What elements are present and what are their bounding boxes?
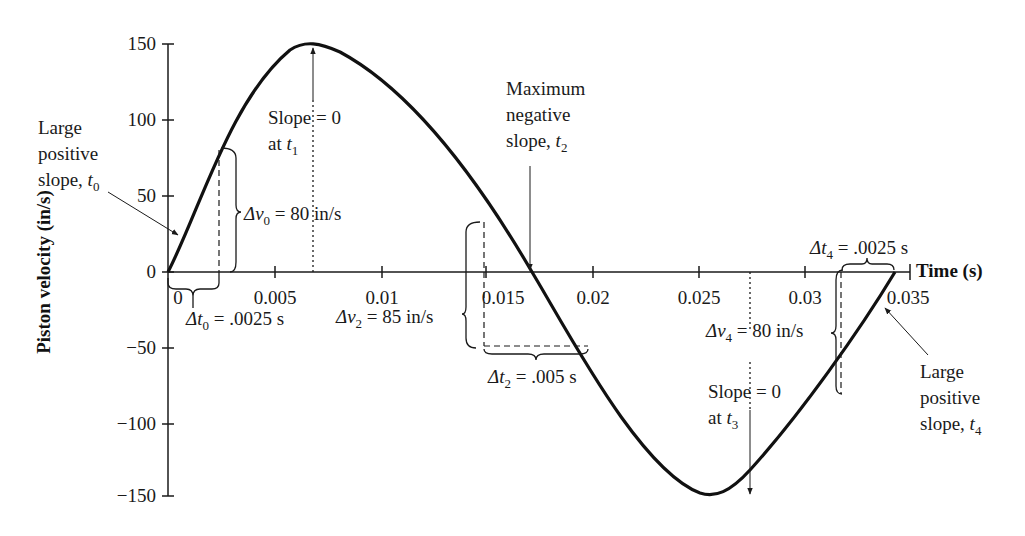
- dv2-label: Δv2 = 85 in/s: [335, 306, 434, 331]
- t1-label-line2: at t1: [268, 133, 298, 158]
- t4-label-line3: slope, t4: [920, 413, 982, 438]
- y-tick-label: −100: [117, 413, 156, 434]
- x-tick-label: 0.025: [678, 287, 721, 308]
- velocity-chart: 150 100 50 0 −50 −100 −150 Piston veloci…: [0, 0, 1025, 536]
- dv4-label: Δv4 = 80 in/s: [705, 320, 804, 345]
- x-axis: 0 0.005 0.01 0.015 0.02 0.025 0.03 0.035…: [168, 260, 983, 308]
- dv2-bracket: [462, 222, 588, 348]
- t0-label-line2: positive: [38, 143, 98, 164]
- dt4-bracket: [842, 258, 894, 270]
- x-tick-label: 0.01: [365, 287, 398, 308]
- t2-label-line1: Maximum: [506, 78, 585, 99]
- t4-label-line1: Large: [920, 361, 964, 382]
- y-axis-title: Piston velocity (in/s): [33, 190, 55, 354]
- dt4-label: Δt4 = .0025 s: [809, 237, 908, 262]
- t1-label-line1: Slope = 0: [268, 107, 341, 128]
- t2-label-line3: slope, t2: [506, 130, 567, 155]
- y-axis: 150 100 50 0 −50 −100 −150 Piston veloci…: [33, 33, 174, 506]
- y-tick-label: −150: [117, 485, 156, 506]
- x-tick-label: 0.03: [788, 287, 821, 308]
- x-tick-label: 0.015: [482, 287, 525, 308]
- x-tick-label: 0: [173, 287, 183, 308]
- t4-arrow: [885, 308, 928, 355]
- dt2-bracket: [484, 349, 588, 360]
- x-tick-label: 0.035: [887, 287, 930, 308]
- t3-label-line2: at t3: [708, 407, 738, 432]
- t3-label-line1: Slope = 0: [708, 381, 781, 402]
- t0-label-line1: Large: [38, 117, 82, 138]
- x-tick-label: 0.02: [576, 287, 609, 308]
- dv0-bracket: [219, 148, 241, 272]
- dt0-label: Δt0 = .0025 s: [185, 308, 284, 333]
- y-tick-label: 0: [147, 261, 157, 282]
- t2-label-line2: negative: [506, 104, 570, 125]
- dv0-label: Δv0 = 80 in/s: [243, 203, 342, 228]
- dv4-bracket: [831, 270, 843, 394]
- y-tick-label: −50: [126, 337, 156, 358]
- y-tick-label: 50: [137, 185, 156, 206]
- y-tick-label: 150: [128, 33, 157, 54]
- dt2-label: Δt2 = .005 s: [487, 366, 577, 391]
- y-tick-label: 100: [128, 109, 157, 130]
- x-tick-label: 0.005: [254, 287, 297, 308]
- x-axis-title: Time (s): [916, 260, 983, 282]
- t4-label-line2: positive: [920, 387, 980, 408]
